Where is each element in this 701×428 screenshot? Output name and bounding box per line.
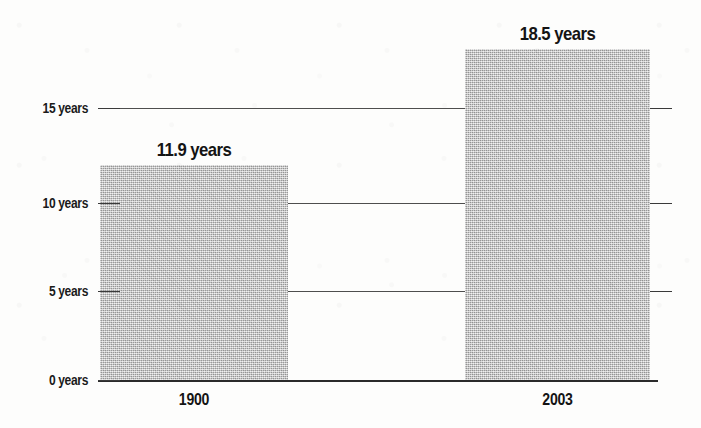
tick-stub-right-5 xyxy=(650,291,672,292)
bar-1900[interactable] xyxy=(100,165,288,380)
ytick-label-5: 5 years xyxy=(12,283,88,299)
value-label-2003: 18.5 years xyxy=(476,23,639,45)
tick-stub-10 xyxy=(98,203,120,204)
tick-stub-right-10 xyxy=(650,203,672,204)
value-label-1900: 11.9 years xyxy=(111,139,276,161)
ytick-label-10: 10 years xyxy=(12,195,88,211)
ytick-label-15: 15 years xyxy=(12,100,88,116)
category-label-1900: 1900 xyxy=(111,391,276,409)
category-label-2003: 2003 xyxy=(476,391,639,409)
ytick-label-0: 0 years xyxy=(12,372,88,388)
tick-stub-15 xyxy=(98,108,120,109)
bar-2003[interactable] xyxy=(465,49,650,380)
tick-stub-5 xyxy=(98,291,120,292)
tick-stub-right-15 xyxy=(650,108,672,109)
tick-stub-0 xyxy=(98,380,120,381)
plot-area: 15 years 10 years 5 years 0 years 11.9 y… xyxy=(0,0,701,428)
axis-baseline-0 xyxy=(98,380,658,382)
bar-chart: 15 years 10 years 5 years 0 years 11.9 y… xyxy=(0,0,701,428)
